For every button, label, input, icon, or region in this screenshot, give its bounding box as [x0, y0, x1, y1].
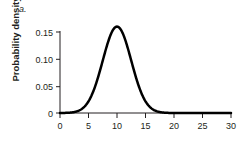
- x-tick-label: 25: [197, 121, 207, 131]
- x-tick-label: 10: [112, 121, 122, 131]
- x-tick-label: 0: [57, 121, 62, 131]
- y-tick-label: 0: [48, 109, 53, 119]
- y-tick-label: 0.05: [35, 82, 53, 92]
- y-tick-label: 0.10: [35, 55, 53, 65]
- x-tick-label: 20: [169, 121, 179, 131]
- y-axis-ticks: [56, 32, 60, 113]
- density-curve: [60, 27, 231, 113]
- figure-panel: a. Probability density 0 0.05 0.10 0.15 …: [0, 0, 244, 149]
- plot-canvas: 0 0.05 0.10 0.15 0 5 10 15 20 25 30: [0, 0, 244, 149]
- x-tick-label: 5: [86, 121, 91, 131]
- y-tick-label: 0.15: [35, 28, 53, 38]
- x-tick-label: 30: [226, 121, 236, 131]
- x-tick-label: 15: [140, 121, 150, 131]
